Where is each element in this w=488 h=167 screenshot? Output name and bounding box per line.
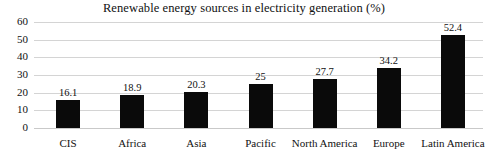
bar[interactable] — [56, 100, 80, 128]
bar[interactable] — [441, 35, 465, 128]
gridline — [34, 57, 483, 58]
bar-chart: Renewable energy sources in electricity … — [0, 0, 488, 167]
bar-value-label: 34.2 — [363, 55, 415, 66]
bar[interactable] — [184, 92, 208, 128]
bar-value-label: 16.1 — [42, 87, 94, 98]
bar-value-label: 20.3 — [170, 79, 222, 90]
gridline — [34, 128, 483, 129]
y-tick-label: 50 — [0, 34, 30, 45]
bar[interactable] — [120, 95, 144, 128]
bar-value-label: 18.9 — [106, 82, 158, 93]
bar-value-label: 27.7 — [299, 66, 351, 77]
bar-value-label: 52.4 — [427, 22, 479, 33]
y-tick-label: 20 — [0, 87, 30, 98]
y-axis: 0102030405060 — [0, 22, 30, 128]
y-tick-label: 60 — [0, 16, 30, 27]
x-tick-label: Latin America — [408, 137, 488, 150]
y-tick-label: 0 — [0, 122, 30, 133]
y-tick-label: 40 — [0, 51, 30, 62]
bar[interactable] — [313, 79, 337, 128]
y-tick-label: 30 — [0, 69, 30, 80]
gridline — [34, 40, 483, 41]
plot-area: 16.118.920.32527.734.252.4 — [34, 22, 483, 128]
bar[interactable] — [377, 68, 401, 128]
bar[interactable] — [249, 84, 273, 128]
gridline — [34, 22, 483, 23]
bar-value-label: 25 — [235, 71, 287, 82]
x-axis: CISAfricaAsiaPacificNorth AmericaEuropeL… — [34, 131, 483, 151]
y-tick-label: 10 — [0, 104, 30, 115]
chart-title: Renewable energy sources in electricity … — [0, 1, 488, 16]
